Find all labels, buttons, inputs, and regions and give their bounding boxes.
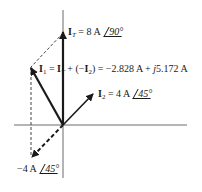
label-it-value: = 8 A xyxy=(76,26,103,37)
label-i2: I2 = 4 A 45° xyxy=(98,88,153,103)
label-it: IT = 8 A 90° xyxy=(68,26,124,41)
label-neg-i2-angle: 45° xyxy=(45,164,59,173)
label-i1-plus: + (− xyxy=(65,63,85,74)
label-i1-imag: 5.172 A xyxy=(156,63,188,74)
label-i2-angle: 45° xyxy=(138,89,152,98)
label-i1-eq: = xyxy=(46,63,57,74)
angle-symbol-it: 90° xyxy=(103,27,126,37)
phasor-diagram: IT = 8 A 90° I1 = IT + (−I2) = −2.828 A … xyxy=(0,0,202,192)
angle-symbol-neg-i2: 45° xyxy=(39,164,62,174)
construction-line-it-to-i1 xyxy=(31,33,63,67)
label-i1-real: ) = −2.828 A + xyxy=(92,63,153,74)
label-i1: I1 = IT + (−I2) = −2.828 A + j5.172 A xyxy=(39,63,188,78)
label-neg-i2-value: −4 A xyxy=(17,163,39,174)
label-i2-value: = 4 A xyxy=(105,88,132,99)
label-it-angle: 90° xyxy=(109,27,123,36)
label-neg-i2: −4 A 45° xyxy=(17,163,60,174)
phasor-i2-arrow xyxy=(63,94,93,125)
angle-symbol-i2: 45° xyxy=(133,89,156,99)
phasor-neg-i2-arrow xyxy=(32,125,63,157)
